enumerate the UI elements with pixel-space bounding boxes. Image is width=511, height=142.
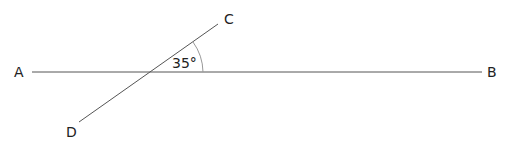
angle-label: 35° [172,55,197,71]
line-CD [79,24,218,122]
label-D: D [66,124,77,140]
label-B: B [487,64,497,80]
label-A: A [14,64,24,80]
label-C: C [224,11,234,27]
geometry-diagram: A B C D 35° [0,0,511,142]
